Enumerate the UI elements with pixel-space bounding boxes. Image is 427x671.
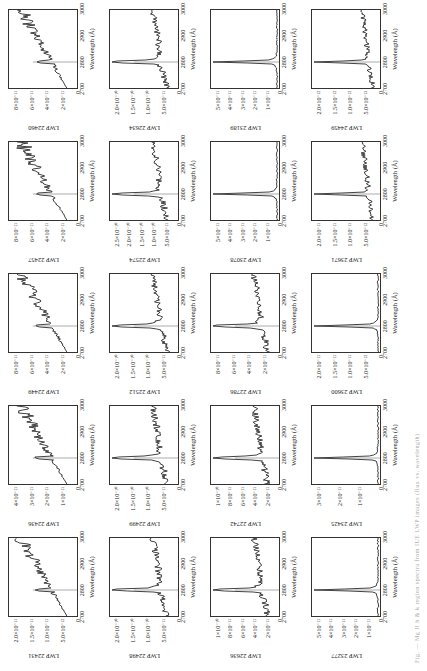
y-tick-label: 1.5×10⁻¹¹ (332, 223, 338, 246)
y-tick-label: 4×10⁻¹¹ (227, 223, 233, 242)
x-tick-label: 2700 (180, 215, 186, 227)
y-tick-label: 1.5×10⁻¹² (332, 91, 338, 114)
y-tick-label: 6×10⁻¹¹ (240, 619, 246, 638)
plot-area (109, 9, 179, 89)
spectrum-line (9, 274, 77, 352)
y-axis-ticks: 05.0×10⁻¹¹1.0×10⁻¹⁰1.5×10⁻¹⁰2.0×10⁻¹⁰ (109, 619, 179, 653)
plot-area (210, 9, 280, 89)
y-tick-label: 2×10⁻¹¹ (353, 619, 359, 638)
x-tick-label: 2900 (79, 30, 85, 42)
x-tick-label: 2900 (382, 426, 388, 438)
x-axis-label: Wavelength (Å) (391, 273, 398, 353)
y-axis-ticks: 05.0×10⁻¹²1.0×10⁻¹¹1.5×10⁻¹¹2.0×10⁻¹¹ (311, 223, 381, 257)
y-tick-label: 2.5×10⁻¹⁰ (114, 223, 120, 247)
y-tick-label: 1×10⁻¹¹ (366, 619, 372, 638)
spectrum-line (211, 142, 279, 220)
spectrum-panel: LWP 2257405.0×10⁻¹¹1.0×10⁻¹⁰1.5×10⁻¹⁰2.0… (105, 137, 206, 269)
x-axis-ticks: 2700280029003000 (79, 273, 87, 353)
x-tick-label: 2700 (281, 347, 287, 359)
y-tick-label: 4×10⁻¹¹ (13, 487, 19, 506)
spectrum-panel: LWP 2249805.0×10⁻¹¹1.0×10⁻¹⁰1.5×10⁻¹⁰2.0… (105, 533, 206, 665)
y-tick-label: 5×10⁻¹¹ (215, 91, 221, 110)
x-tick-label: 2800 (281, 320, 287, 332)
panel-title: LWP 23277 (332, 653, 362, 660)
y-tick-label: 1.0×10⁻¹¹ (44, 619, 50, 642)
x-tick-label: 2700 (180, 479, 186, 491)
x-tick-label: 2700 (382, 479, 388, 491)
x-tick-label: 2700 (281, 83, 287, 95)
y-tick-label: 2.0×10⁻¹⁰ (114, 487, 120, 511)
y-tick-label: 4×10⁻¹¹ (252, 619, 258, 638)
x-tick-label: 2900 (180, 294, 186, 306)
x-tick-label: 2700 (79, 611, 85, 623)
y-tick-label: 5.0×10⁻¹² (60, 619, 66, 642)
spectra-grid: LWP 2243105.0×10⁻¹²1.0×10⁻¹¹1.5×10⁻¹¹2.0… (4, 5, 408, 665)
plot-area (210, 405, 280, 485)
y-tick-label: 1.0×10⁻¹¹ (347, 355, 353, 378)
y-tick-label: 1.0×10⁻¹² (347, 91, 353, 114)
plot-area (210, 141, 280, 221)
x-tick-label: 2900 (382, 558, 388, 570)
y-tick-label: 1.0×10⁻¹⁰ (145, 91, 151, 115)
x-tick-label: 2700 (79, 479, 85, 491)
x-tick-label: 2900 (180, 426, 186, 438)
plot-area (210, 537, 280, 617)
x-tick-label: 2800 (79, 188, 85, 200)
panel-title: LWP 23671 (332, 257, 362, 264)
x-tick-label: 2900 (382, 294, 388, 306)
y-tick-label: 1.0×10⁻¹⁰ (151, 223, 157, 247)
panel-title: LWP 23078 (231, 257, 261, 264)
x-tick-label: 2900 (281, 294, 287, 306)
spectrum-line (312, 406, 380, 484)
y-axis-ticks: 01×10⁻¹¹2×10⁻¹¹3×10⁻¹¹4×10⁻¹¹ (8, 487, 78, 521)
y-tick-label: 8×10⁻¹¹ (227, 487, 233, 506)
x-tick-label: 2800 (382, 188, 388, 200)
y-tick-label: 1×10⁻¹¹ (265, 91, 271, 110)
x-tick-label: 2800 (180, 584, 186, 596)
x-tick-label: 2700 (382, 347, 388, 359)
y-tick-label: 5.0×10⁻¹¹ (161, 91, 167, 114)
y-tick-label: 8×10⁻¹¹ (13, 91, 19, 110)
x-axis-ticks: 2700280029003000 (281, 273, 289, 353)
x-axis-ticks: 2700280029003000 (281, 405, 289, 485)
y-tick-label: 2×10⁻¹¹ (265, 487, 271, 506)
y-tick-label: 3×10⁻¹¹ (341, 619, 347, 638)
plot-area (8, 405, 78, 485)
x-tick-label: 2900 (382, 162, 388, 174)
spectrum-panel: LWP 2278602×10⁻¹¹4×10⁻¹¹6×10⁻¹¹8×10⁻¹¹27… (206, 269, 307, 401)
panel-title: LWP 22786 (231, 389, 261, 396)
y-axis-ticks: 02×10⁻¹¹4×10⁻¹¹6×10⁻¹¹8×10⁻¹¹1×10⁻¹⁰ (210, 619, 280, 653)
spectrum-panel: LWP 2327701×10⁻¹¹2×10⁻¹¹3×10⁻¹¹4×10⁻¹¹5×… (307, 533, 408, 665)
y-tick-label: 1×10⁻¹⁰ (215, 619, 221, 638)
y-tick-label: 6×10⁻¹¹ (240, 487, 246, 506)
x-axis-label: Wavelength (Å) (189, 141, 196, 221)
y-axis-ticks: 05.0×10⁻¹²1.0×10⁻¹¹1.5×10⁻¹¹2.0×10⁻¹¹ (311, 355, 381, 389)
x-tick-label: 2800 (79, 56, 85, 68)
y-tick-label: 5.0×10⁻¹¹ (161, 619, 167, 642)
x-tick-label: 2900 (79, 162, 85, 174)
plot-area (8, 537, 78, 617)
x-axis-ticks: 2700280029003000 (281, 537, 289, 617)
spectrum-line (211, 538, 279, 616)
y-axis-ticks: 05.0×10⁻¹¹1.0×10⁻¹⁰1.5×10⁻¹⁰2.0×10⁻¹⁰ (109, 487, 179, 521)
y-tick-label: 4×10⁻¹¹ (328, 619, 334, 638)
plot-area (311, 537, 381, 617)
plot-area (109, 537, 179, 617)
x-axis-ticks: 2700280029003000 (281, 9, 289, 89)
y-axis-ticks: 01×10⁻¹¹2×10⁻¹¹3×10⁻¹¹ (311, 487, 381, 521)
spectrum-panel: LWP 2318901×10⁻¹¹2×10⁻¹¹3×10⁻¹¹4×10⁻¹¹5×… (206, 5, 307, 137)
y-tick-label: 4×10⁻¹¹ (44, 223, 50, 242)
y-tick-label: 3×10⁻¹¹ (29, 487, 35, 506)
x-axis-label: Wavelength (Å) (290, 537, 297, 617)
panel-title: LWP 22634 (130, 125, 160, 132)
x-tick-label: 2700 (281, 611, 287, 623)
x-axis-ticks: 2700280029003000 (180, 141, 188, 221)
panel-title: LWP 22574 (130, 257, 160, 264)
y-tick-label: 5.0×10⁻¹² (363, 223, 369, 246)
y-tick-label: 1.5×10⁻¹⁰ (130, 487, 136, 511)
y-tick-label: 6×10⁻¹¹ (231, 355, 237, 374)
y-tick-label: 2×10⁻¹¹ (265, 619, 271, 638)
y-axis-ticks: 01×10⁻¹¹2×10⁻¹¹3×10⁻¹¹4×10⁻¹¹5×10⁻¹¹ (311, 619, 381, 653)
x-tick-label: 2800 (281, 188, 287, 200)
spectrum-panel: LWP 2263602×10⁻¹¹4×10⁻¹¹6×10⁻¹¹8×10⁻¹¹1×… (206, 533, 307, 665)
